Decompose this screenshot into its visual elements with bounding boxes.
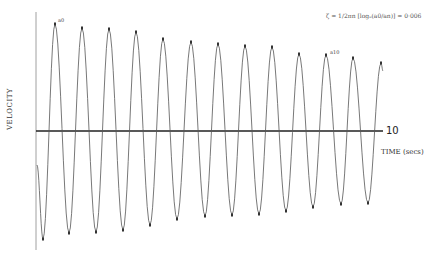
peak-label-a0: a0 [58, 17, 64, 23]
x-axis-label: TIME (secs) [381, 148, 424, 156]
y-axis-label: VELOCITY [6, 88, 14, 130]
damping-formula: ζ = 1/2πn [logₑ(a0/an)] = 0·006 [326, 12, 421, 19]
peak-label-a10: a10 [330, 49, 339, 55]
x-tick-label: 10 [386, 125, 399, 136]
velocity-time-chart [0, 0, 440, 260]
